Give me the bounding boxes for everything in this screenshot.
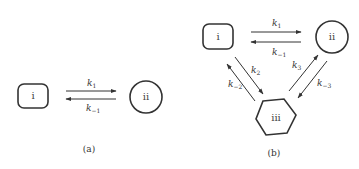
arrow-k-3-icon [298, 61, 327, 98]
diagram-b: i ii iii k1 k−1 k2 k−2 k3 [203, 18, 348, 158]
rate-label-k-1: k−1 [86, 103, 100, 114]
rate-label-k-1: k−1 [272, 47, 286, 58]
node-label: i [31, 90, 34, 101]
caption-a: (a) [83, 144, 95, 154]
node-label: ii [143, 91, 149, 102]
node-b-iii: iii [256, 99, 296, 135]
node-a-i: i [18, 84, 48, 108]
rate-label-k-3: k−3 [317, 78, 331, 89]
rate-label-k2: k2 [251, 65, 260, 76]
node-label: iii [271, 112, 281, 123]
rate-label-k-2: k−2 [228, 79, 242, 90]
caption-b: (b) [268, 148, 281, 158]
node-label: ii [329, 31, 335, 42]
node-b-ii: ii [316, 21, 348, 53]
rate-label-k3: k3 [292, 60, 301, 71]
node-label: i [216, 31, 219, 42]
node-b-i: i [203, 24, 233, 49]
node-a-ii: ii [130, 81, 162, 113]
reaction-scheme-figure: i ii k1 k−1 (a) i ii iii [0, 0, 359, 169]
diagram-a: i ii k1 k−1 (a) [18, 78, 162, 154]
rate-label-k1: k1 [272, 18, 281, 29]
rate-label-k1: k1 [87, 78, 96, 89]
